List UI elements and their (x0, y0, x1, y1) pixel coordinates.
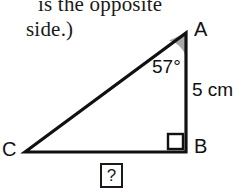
side-length-label-ab: 5 cm (192, 79, 233, 101)
unknown-side-box: ? (100, 163, 123, 188)
figure-container: is the opposite side.) A B C 57° 5 cm ? (0, 0, 242, 194)
unknown-side-value: ? (102, 165, 121, 186)
vertex-label-c: C (2, 138, 16, 161)
right-angle-marker-b (168, 134, 183, 149)
angle-measure-label: 57° (152, 56, 181, 78)
vertex-label-a: A (194, 18, 207, 41)
triangle-outline (25, 33, 186, 152)
vertex-label-b: B (194, 135, 207, 158)
